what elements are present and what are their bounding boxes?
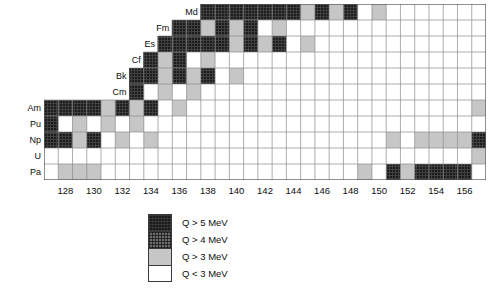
heatmap-cell bbox=[343, 36, 358, 52]
heatmap-cell bbox=[429, 68, 444, 84]
heatmap-cell bbox=[272, 36, 287, 52]
heatmap-cell bbox=[187, 84, 202, 100]
heatmap-cell bbox=[286, 20, 301, 36]
heatmap-cell bbox=[58, 164, 73, 180]
heatmap-cell bbox=[144, 68, 159, 84]
heatmap-cell bbox=[258, 148, 273, 164]
heatmap-cell bbox=[315, 52, 330, 68]
heatmap-cell bbox=[58, 100, 73, 116]
heatmap-cell bbox=[115, 116, 130, 132]
heatmap-cell bbox=[343, 68, 358, 84]
heatmap-cell bbox=[286, 68, 301, 84]
heatmap-cell bbox=[286, 36, 301, 52]
heatmap-cell bbox=[400, 68, 415, 84]
heatmap-cell bbox=[130, 100, 145, 116]
heatmap-cell bbox=[457, 116, 472, 132]
heatmap-cell bbox=[130, 84, 145, 100]
heatmap-cell bbox=[443, 68, 458, 84]
heatmap-cell bbox=[386, 36, 401, 52]
heatmap-cell bbox=[187, 52, 202, 68]
heatmap-cell bbox=[258, 68, 273, 84]
element-label-np: Np bbox=[7, 136, 41, 145]
heatmap-cell bbox=[201, 100, 216, 116]
heatmap-cell bbox=[201, 84, 216, 100]
heatmap-cell bbox=[215, 36, 230, 52]
heatmap-cell bbox=[301, 164, 316, 180]
heatmap-cell bbox=[429, 116, 444, 132]
legend-label-q0: Q < 3 MeV bbox=[182, 269, 228, 279]
heatmap-cell bbox=[343, 148, 358, 164]
heatmap-cell bbox=[415, 20, 430, 36]
heatmap-cell bbox=[315, 132, 330, 148]
heatmap-cell bbox=[415, 68, 430, 84]
heatmap-cell bbox=[301, 100, 316, 116]
heatmap-cell bbox=[315, 148, 330, 164]
legend-item-q4: Q > 4 MeV bbox=[148, 231, 348, 248]
heatmap-cell bbox=[415, 52, 430, 68]
heatmap-cell bbox=[244, 164, 259, 180]
heatmap-cell bbox=[315, 164, 330, 180]
heatmap-cell bbox=[443, 132, 458, 148]
heatmap-cell bbox=[244, 132, 259, 148]
heatmap-cell bbox=[301, 68, 316, 84]
heatmap-cell bbox=[343, 4, 358, 20]
heatmap-cell bbox=[286, 132, 301, 148]
heatmap-cell bbox=[258, 116, 273, 132]
x-tick-146: 146 bbox=[307, 186, 337, 196]
heatmap-cell bbox=[301, 36, 316, 52]
heatmap-cell bbox=[429, 36, 444, 52]
heatmap-cell bbox=[472, 20, 486, 36]
heatmap-cell bbox=[315, 84, 330, 100]
heatmap-cell bbox=[329, 84, 344, 100]
heatmap-cell bbox=[215, 68, 230, 84]
element-label-u: U bbox=[7, 152, 41, 161]
heatmap-cell bbox=[443, 84, 458, 100]
heatmap-cell bbox=[258, 20, 273, 36]
legend-label-q5: Q > 5 MeV bbox=[182, 218, 228, 228]
heatmap-cell bbox=[372, 4, 387, 20]
heatmap-cell bbox=[415, 4, 430, 20]
heatmap-cell bbox=[158, 84, 173, 100]
heatmap-cell bbox=[343, 116, 358, 132]
heatmap-cell bbox=[73, 132, 88, 148]
heatmap-cell bbox=[73, 116, 88, 132]
heatmap-cell bbox=[272, 164, 287, 180]
heatmap-cell bbox=[472, 148, 486, 164]
element-label-am: Am bbox=[7, 104, 41, 113]
heatmap-cell bbox=[229, 84, 244, 100]
heatmap-cell bbox=[258, 164, 273, 180]
heatmap-cell bbox=[130, 148, 145, 164]
heatmap-cell bbox=[130, 116, 145, 132]
heatmap-cell bbox=[329, 164, 344, 180]
heatmap-cell bbox=[400, 164, 415, 180]
heatmap-cell bbox=[201, 36, 216, 52]
heatmap-cell bbox=[372, 164, 387, 180]
heatmap-cell bbox=[329, 148, 344, 164]
heatmap-cell bbox=[386, 4, 401, 20]
heatmap-cell bbox=[229, 132, 244, 148]
heatmap-cell bbox=[73, 100, 88, 116]
heatmap-cell bbox=[158, 148, 173, 164]
heatmap-cell bbox=[215, 84, 230, 100]
heatmap-cell bbox=[229, 164, 244, 180]
heatmap-cell bbox=[358, 20, 373, 36]
heatmap-cell bbox=[400, 148, 415, 164]
heatmap-cell bbox=[286, 164, 301, 180]
heatmap-cell bbox=[472, 116, 486, 132]
heatmap-cell bbox=[315, 100, 330, 116]
heatmap-cell bbox=[329, 132, 344, 148]
heatmap-cell bbox=[400, 20, 415, 36]
x-tick-128: 128 bbox=[50, 186, 80, 196]
heatmap-cell bbox=[244, 4, 259, 20]
heatmap-cell bbox=[286, 52, 301, 68]
heatmap-cell bbox=[73, 164, 88, 180]
heatmap-cell bbox=[400, 84, 415, 100]
heatmap-cell bbox=[201, 148, 216, 164]
heatmap-cell bbox=[87, 148, 102, 164]
nuclide-q-value-chart: MdFmEsCfBkCmAmPuNpUPa 128130132134136138… bbox=[0, 0, 494, 295]
element-label-bk: Bk bbox=[93, 72, 127, 81]
heatmap-cell bbox=[386, 132, 401, 148]
heatmap-cell bbox=[443, 4, 458, 20]
heatmap-cell bbox=[101, 116, 116, 132]
heatmap-cell bbox=[315, 20, 330, 36]
